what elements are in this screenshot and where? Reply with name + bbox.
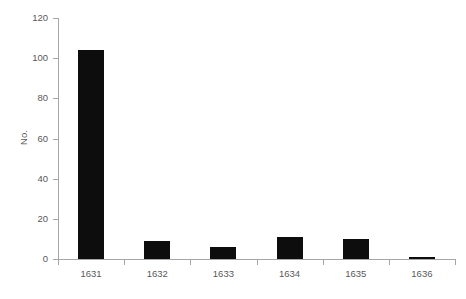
x-axis-tick: [389, 260, 390, 265]
x-axis-tick: [257, 260, 258, 265]
y-axis-tick: [53, 18, 58, 19]
bar-chart: No. 020406080100120 16311632163316341635…: [0, 0, 466, 299]
y-axis-tick-label: 100: [6, 53, 48, 63]
bar-1634: [277, 237, 303, 259]
x-axis-tick-label: 1635: [323, 268, 389, 279]
bar-1631: [78, 50, 104, 259]
y-axis-tick-label: 60: [6, 134, 48, 144]
y-axis-tick: [53, 98, 58, 99]
y-axis-tick: [53, 179, 58, 180]
chart-screenshot: No. 020406080100120 16311632163316341635…: [0, 0, 466, 299]
x-axis-tick: [323, 260, 324, 265]
bar-1633: [210, 247, 236, 259]
bar-1632: [144, 241, 170, 259]
x-axis-tick: [124, 260, 125, 265]
y-axis-tick: [53, 58, 58, 59]
x-axis-tick-label: 1636: [389, 268, 455, 279]
y-axis-tick: [53, 219, 58, 220]
y-axis-tick-label: 40: [6, 174, 48, 184]
x-axis-tick: [190, 260, 191, 265]
y-axis-tick-label: 20: [6, 214, 48, 224]
x-axis-tick: [58, 260, 59, 265]
y-axis-tick-label: 0: [6, 254, 48, 264]
y-axis-tick: [53, 139, 58, 140]
x-axis-tick-label: 1632: [124, 268, 190, 279]
y-axis-tick-label: 120: [6, 13, 48, 23]
x-axis-tick-label: 1633: [190, 268, 256, 279]
bar-1635: [343, 239, 369, 259]
x-axis-tick: [455, 260, 456, 265]
y-axis-line: [58, 18, 59, 260]
x-axis-tick-label: 1631: [58, 268, 124, 279]
x-axis-tick-label: 1634: [257, 268, 323, 279]
bar-1636: [409, 257, 435, 259]
y-axis-tick-label: 80: [6, 93, 48, 103]
